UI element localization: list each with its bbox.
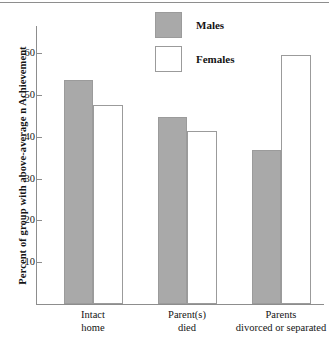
y-tick-label: 60 [9, 48, 35, 58]
legend-label-males: Males [196, 19, 224, 31]
legend-item-females: Females [155, 42, 295, 76]
y-tick-mark [37, 53, 42, 54]
bar-male-0 [64, 80, 93, 304]
bar-female-2 [281, 55, 311, 304]
bar-male-2 [252, 150, 281, 304]
y-axis-line [36, 26, 37, 305]
bar-female-1 [187, 131, 217, 304]
legend-item-males: Males [155, 8, 295, 42]
y-tick-mark [37, 179, 42, 180]
bar-male-1 [158, 117, 187, 304]
legend: Males Females [155, 8, 295, 76]
y-tick-label: 10 [9, 257, 35, 267]
y-tick-mark [37, 220, 42, 221]
legend-swatch-males-icon [155, 12, 182, 38]
y-tick-mark [37, 137, 42, 138]
y-tick-label: 20 [9, 215, 35, 225]
x-axis-label-2: Parentsdivorced or separated [211, 308, 329, 334]
x-axis-label-line: Parents [211, 308, 329, 321]
y-tick-mark [37, 262, 42, 263]
bar-chart: Percent of group with above-average n Ac… [0, 0, 329, 341]
bar-female-0 [93, 105, 123, 304]
y-tick-label: 40 [9, 132, 35, 142]
y-tick-label: 50 [9, 90, 35, 100]
x-axis-line [36, 304, 324, 305]
legend-swatch-females-icon [155, 46, 182, 72]
y-tick-mark [37, 95, 42, 96]
legend-label-females: Females [196, 53, 234, 65]
x-axis-label-line: divorced or separated [211, 321, 329, 334]
y-tick-label: 30 [9, 174, 35, 184]
